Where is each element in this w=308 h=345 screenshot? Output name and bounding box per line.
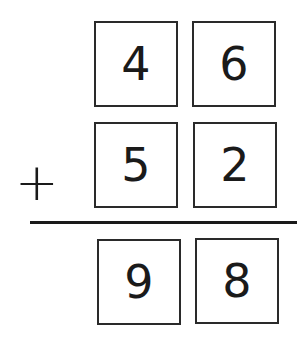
sum-tens-box: 9 (97, 239, 181, 325)
addend1-ones-box: 6 (192, 21, 276, 107)
addend2-ones-box: 2 (193, 122, 277, 208)
plus-sign: + (15, 157, 51, 207)
addend1-tens-box: 4 (94, 21, 178, 107)
sum-ones-box: 8 (195, 238, 279, 324)
addend2-tens-box: 5 (94, 122, 178, 208)
sum-line (30, 221, 297, 224)
